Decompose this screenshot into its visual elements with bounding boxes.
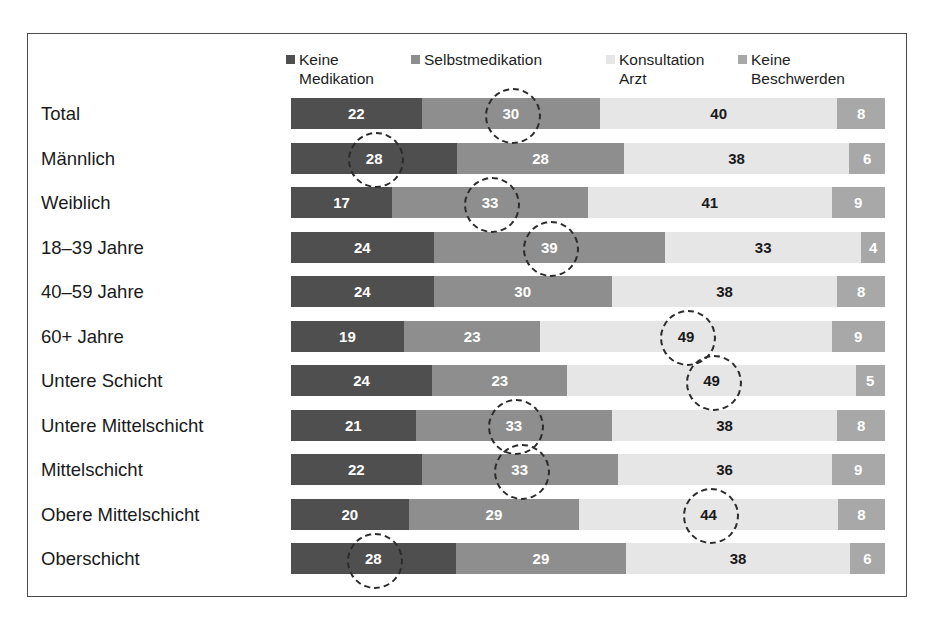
legend-item-3: Keine Beschwerden [738,50,845,88]
bar-value-label: 30 [502,106,519,121]
chart-row: Männlich2828386 [28,143,908,187]
chart-row: Untere Schicht2423495 [28,365,908,409]
bar-value-label: 9 [854,462,862,477]
bar-value-label: 38 [730,551,747,566]
bar-value-label: 9 [854,195,862,210]
bar-segment: 6 [849,143,885,174]
bar-value-label: 22 [348,462,365,477]
bar-segment: 21 [291,410,416,441]
legend-item-2: Konsultation Arzt [606,50,704,88]
bar-value-label: 6 [863,551,871,566]
bar-segment: 38 [626,543,850,574]
bar-value-label: 23 [491,373,508,388]
bar-value-label: 24 [353,373,370,388]
bar-value-label: 49 [678,329,695,344]
bar-segment: 8 [837,410,885,441]
bar-value-label: 5 [866,373,874,388]
bar-segment: 23 [404,321,541,352]
row-label: Untere Mittelschicht [41,410,203,441]
bar-value-label: 33 [482,195,499,210]
row-label: 60+ Jahre [41,321,124,352]
bar-segment: 5 [856,365,885,396]
bar-value-label: 33 [511,462,528,477]
row-label: Total [41,98,80,129]
legend-swatch-icon [286,55,295,64]
legend-item-1: Selbstmedikation [411,50,542,69]
stacked-bar: 2233369 [291,454,885,485]
bar-segment: 33 [416,410,612,441]
bar-value-label: 30 [514,284,531,299]
chart-row: Mittelschicht2233369 [28,454,908,498]
bar-value-label: 21 [345,418,362,433]
chart-row: Weiblich1733419 [28,187,908,231]
row-label: 40–59 Jahre [41,276,144,307]
bar-segment: 17 [291,187,392,218]
legend-swatch-icon [738,55,747,64]
bar-segment: 39 [434,232,666,263]
legend-item-label: Selbstmedikation [424,50,542,69]
bar-segment: 28 [291,543,456,574]
row-label: Untere Schicht [41,365,162,396]
bar-segment: 20 [291,499,409,530]
bar-segment: 38 [612,276,838,307]
bar-value-label: 8 [857,418,865,433]
bar-segment: 9 [832,321,885,352]
bar-value-label: 8 [857,106,865,121]
bar-value-label: 9 [854,329,862,344]
bar-segment: 6 [850,543,885,574]
bar-value-label: 39 [541,240,558,255]
bar-segment: 23 [432,365,567,396]
bar-segment: 8 [838,499,885,530]
stacked-bar: 1923499 [291,321,885,352]
figure-caption [70,608,870,629]
bar-segment: 49 [540,321,831,352]
bar-segment: 24 [291,276,434,307]
bar-segment: 24 [291,232,434,263]
bar-value-label: 38 [716,284,733,299]
bar-segment: 36 [618,454,832,485]
chart-row: Untere Mittelschicht2133388 [28,410,908,454]
bar-value-label: 29 [486,507,503,522]
chart-row: 40–59 Jahre2430388 [28,276,908,320]
bar-value-label: 28 [365,551,382,566]
bar-segment: 49 [567,365,855,396]
bar-segment: 38 [612,410,838,441]
bar-segment: 22 [291,454,422,485]
bar-value-label: 38 [728,151,745,166]
stacked-bar: 2439334 [291,232,885,263]
chart-legend: Keine MedikationSelbstmedikationKonsulta… [286,50,896,98]
row-label: 18–39 Jahre [41,232,144,263]
stacked-bar: 2029448 [291,499,885,530]
bar-segment: 41 [588,187,832,218]
bar-segment: 29 [456,543,627,574]
legend-item-0: Keine Medikation [286,50,374,88]
chart-plot-area: Total2230408Männlich2828386Weiblich17334… [28,98,908,596]
bar-segment: 29 [409,499,580,530]
bar-segment: 4 [861,232,885,263]
bar-value-label: 38 [716,418,733,433]
chart-frame: Keine MedikationSelbstmedikationKonsulta… [27,33,907,597]
bar-value-label: 24 [354,284,371,299]
bar-segment: 44 [579,499,838,530]
bar-segment: 8 [837,98,885,129]
bar-segment: 8 [837,276,885,307]
bar-segment: 40 [600,98,838,129]
row-label: Männlich [41,143,115,174]
bar-segment: 30 [434,276,612,307]
bar-segment: 33 [665,232,861,263]
legend-item-label: Keine Beschwerden [751,50,845,88]
bar-segment: 22 [291,98,422,129]
bar-value-label: 24 [354,240,371,255]
bar-value-label: 29 [533,551,550,566]
stacked-bar: 2230408 [291,98,885,129]
bar-value-label: 28 [366,151,383,166]
bar-segment: 28 [457,143,623,174]
bar-segment: 33 [422,454,618,485]
chart-row: 60+ Jahre1923499 [28,321,908,365]
row-label: Obere Mittelschicht [41,499,199,530]
bar-segment: 19 [291,321,404,352]
bar-value-label: 23 [464,329,481,344]
stacked-bar: 2828386 [291,143,885,174]
bar-segment: 38 [624,143,850,174]
bar-value-label: 28 [532,151,549,166]
